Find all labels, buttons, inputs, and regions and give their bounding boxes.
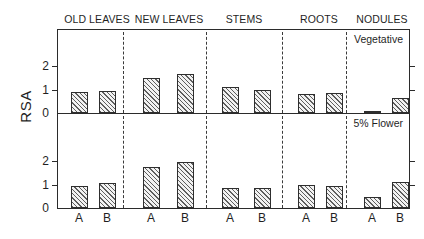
xlabel-old-leaves-a: A (75, 211, 83, 225)
ytick-label-2-top: 2 (42, 60, 49, 72)
bar-flower-stems-a (222, 188, 239, 208)
bar-vegetative-nodules-b (392, 98, 409, 113)
bar-vegetative-new-leaves-a (143, 78, 160, 113)
ytick-label-1-top: 1 (42, 84, 49, 96)
group-divider-1-bottom (123, 116, 124, 208)
ytick-mark-2-bottom (52, 161, 58, 162)
ytick-label-0-top: 0 (42, 107, 49, 119)
panel-vegetative-inner: Vegetative 1 2 0 (58, 30, 409, 113)
bar-vegetative-old-leaves-b (99, 91, 116, 113)
ytick-mark-1-bottom-right (409, 185, 415, 186)
xlabel-nodules-a: A (368, 211, 376, 225)
bar-flower-old-leaves-a (71, 186, 88, 208)
xlabel-nodules-b: B (396, 211, 404, 225)
panel-label-vegetative: Vegetative (354, 33, 403, 45)
x-axis-label-row: A B A B A B A B A B (57, 211, 410, 231)
panel-flower-inner: 5% Flower 1 2 0 (58, 114, 409, 208)
xlabel-stems-b: B (258, 211, 266, 225)
group-divider-4-bottom (346, 116, 347, 208)
bar-vegetative-old-leaves-a (71, 92, 88, 113)
ytick-mark-2-bottom-right (409, 161, 415, 162)
bar-chart-figure: OLD LEAVES NEW LEAVES STEMS ROOTS NODULE… (0, 0, 424, 239)
group-divider-2-bottom (206, 116, 207, 208)
group-divider-3-top (282, 32, 283, 113)
bar-vegetative-stems-b (254, 90, 271, 114)
group-header-row: OLD LEAVES NEW LEAVES STEMS ROOTS NODULE… (57, 13, 410, 29)
bar-flower-nodules-a (364, 197, 381, 208)
bar-flower-new-leaves-b (177, 162, 194, 208)
bar-flower-roots-b (326, 186, 343, 208)
xlabel-roots-b: B (330, 211, 338, 225)
bar-vegetative-roots-b (326, 93, 343, 113)
ytick-label-0-bottom: 0 (42, 202, 49, 214)
xlabel-old-leaves-b: B (103, 211, 111, 225)
xlabel-stems-a: A (226, 211, 234, 225)
bar-flower-nodules-b (392, 182, 409, 208)
panel-vegetative: Vegetative 1 2 0 (57, 29, 410, 113)
group-header-old-leaves: OLD LEAVES (64, 13, 130, 25)
bar-flower-roots-a (298, 185, 315, 209)
ytick-mark-2-top (52, 66, 58, 67)
y-axis-title: RSA (17, 77, 34, 137)
bar-flower-new-leaves-a (143, 167, 160, 208)
xlabel-roots-a: A (302, 211, 310, 225)
group-divider-2-top (206, 32, 207, 113)
bar-vegetative-new-leaves-b (177, 74, 194, 113)
group-header-roots: ROOTS (300, 13, 338, 25)
bar-flower-old-leaves-b (99, 183, 116, 208)
bar-flower-stems-b (254, 188, 271, 208)
ytick-mark-1-bottom (52, 185, 58, 186)
group-divider-4-top (346, 32, 347, 113)
bar-vegetative-stems-a (222, 87, 239, 113)
bar-vegetative-roots-a (298, 94, 315, 113)
xlabel-new-leaves-b: B (181, 211, 189, 225)
group-header-stems: STEMS (226, 13, 263, 25)
ytick-mark-1-top-right (409, 90, 415, 91)
ytick-label-2-bottom: 2 (42, 155, 49, 167)
ytick-label-1-bottom: 1 (42, 179, 49, 191)
panel-label-flower: 5% Flower (353, 117, 403, 129)
ytick-mark-1-top (52, 90, 58, 91)
group-header-new-leaves: NEW LEAVES (135, 13, 204, 25)
group-divider-3-bottom (282, 116, 283, 208)
group-header-nodules: NODULES (356, 13, 407, 25)
group-divider-1-top (123, 32, 124, 113)
xlabel-new-leaves-a: A (147, 211, 155, 225)
panel-flower: 5% Flower 1 2 0 (57, 113, 410, 209)
ytick-mark-2-top-right (409, 66, 415, 67)
